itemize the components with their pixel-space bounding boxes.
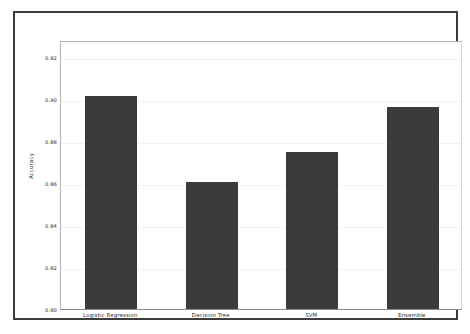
x-axis-tick-labels: Logistic RegressionDecision TreeSVMEnsem… bbox=[60, 312, 462, 326]
x-tick-label: Ensemble bbox=[398, 312, 426, 318]
y-tick-label: 0.90 bbox=[45, 97, 57, 103]
bars-layer bbox=[61, 42, 461, 309]
x-tick-label: Decision Tree bbox=[192, 312, 230, 318]
bar bbox=[85, 96, 137, 309]
bar bbox=[186, 182, 238, 309]
figure: Accuracy 0.800.820.840.860.880.900.92 Lo… bbox=[0, 0, 470, 334]
y-tick-label: 0.84 bbox=[45, 223, 57, 229]
figure-frame: Accuracy 0.800.820.840.860.880.900.92 Lo… bbox=[13, 11, 458, 320]
plot-area bbox=[60, 41, 462, 310]
y-tick-label: 0.80 bbox=[45, 307, 57, 313]
bar bbox=[387, 107, 439, 309]
x-tick-label: Logistic Regression bbox=[83, 312, 138, 318]
y-axis-tick-labels: 0.800.820.840.860.880.900.92 bbox=[32, 41, 57, 310]
x-tick-label: SVM bbox=[305, 312, 317, 318]
bar bbox=[286, 152, 338, 309]
y-tick-label: 0.92 bbox=[45, 55, 57, 61]
y-tick-label: 0.86 bbox=[45, 181, 57, 187]
y-tick-label: 0.88 bbox=[45, 139, 57, 145]
y-tick-label: 0.82 bbox=[45, 265, 57, 271]
